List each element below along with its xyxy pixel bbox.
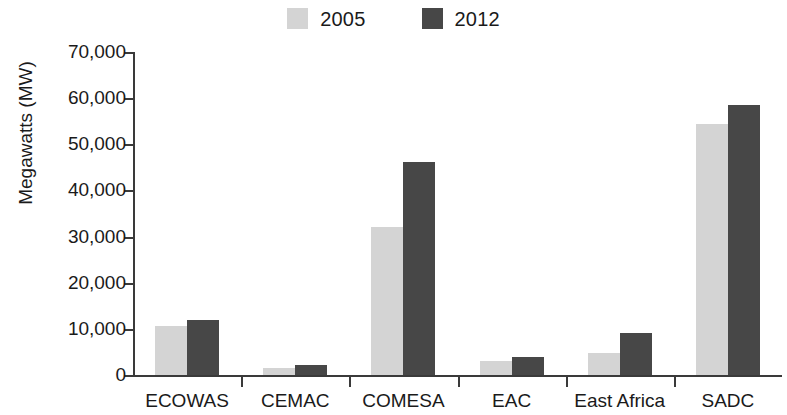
y-tick-label: 50,000 — [68, 133, 126, 155]
bar-east-africa-2005 — [588, 353, 620, 375]
bar-sadc-2005 — [696, 124, 728, 375]
bar-eac-2005 — [480, 361, 512, 375]
x-axis-label-ecowas: ECOWAS — [133, 390, 241, 412]
x-tick-mark — [674, 377, 676, 387]
bar-eac-2012 — [512, 357, 544, 375]
bar-ecowas-2012 — [187, 320, 219, 375]
bar-group — [133, 52, 241, 375]
legend-label-2012: 2012 — [455, 9, 500, 29]
bar-comesa-2005 — [371, 227, 403, 375]
x-tick-mark — [241, 377, 243, 387]
x-tick-mark — [349, 377, 351, 387]
bar-group — [458, 52, 566, 375]
x-axis-label-east-africa: East Africa — [566, 390, 674, 412]
bar-group — [674, 52, 782, 375]
y-tick-label: 0 — [115, 364, 126, 386]
y-tick-label: 20,000 — [68, 272, 126, 294]
legend-label-2005: 2005 — [320, 9, 365, 29]
legend-entry-2012: 2012 — [422, 8, 500, 29]
x-axis-label-comesa: COMESA — [349, 390, 457, 412]
bar-group — [566, 52, 674, 375]
x-tick-mark — [566, 377, 568, 387]
y-tick-label: 60,000 — [68, 87, 126, 109]
bar-sadc-2012 — [728, 105, 760, 375]
bar-chart: 2005 2012 Megawatts (MW) 010,00020,00030… — [0, 0, 787, 415]
y-tick-label: 30,000 — [68, 226, 126, 248]
legend-swatch-2012-icon — [422, 8, 443, 29]
bar-comesa-2012 — [403, 162, 435, 375]
y-tick-label: 10,000 — [68, 318, 126, 340]
chart-legend: 2005 2012 — [0, 8, 787, 29]
x-axis-label-sadc: SADC — [674, 390, 782, 412]
bar-cemac-2012 — [295, 365, 327, 375]
plot-area: 010,00020,00030,00040,00050,00060,00070,… — [133, 52, 782, 375]
bar-cemac-2005 — [263, 368, 295, 375]
bar-group — [349, 52, 457, 375]
y-tick-label: 70,000 — [68, 41, 126, 63]
bar-ecowas-2005 — [155, 326, 187, 375]
y-axis-title: Megawatts (MW) — [15, 33, 37, 233]
bar-group — [241, 52, 349, 375]
legend-entry-2005: 2005 — [287, 8, 365, 29]
x-axis-label-eac: EAC — [458, 390, 566, 412]
legend-swatch-2005-icon — [287, 8, 308, 29]
bar-east-africa-2012 — [620, 333, 652, 375]
y-tick-label: 40,000 — [68, 179, 126, 201]
x-axis-label-cemac: CEMAC — [241, 390, 349, 412]
x-tick-mark — [458, 377, 460, 387]
